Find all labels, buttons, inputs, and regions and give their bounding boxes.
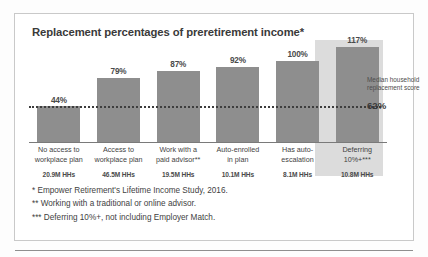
xlabel-text: Has auto- escalation — [269, 145, 327, 164]
divider — [15, 250, 413, 251]
bar-slot-auto-escalation[interactable]: 100% — [268, 40, 328, 142]
benchmark-label-line2: replacement score — [367, 84, 428, 92]
xlabel-line2: in plan — [227, 155, 248, 164]
footnote-1: * Empower Retirement's Lifetime Income S… — [32, 184, 382, 197]
xlabel-household-count: 19.5M HHs — [149, 171, 207, 178]
footnote-2: ** Working with a traditional or online … — [32, 197, 382, 210]
xlabel-household-count: 10.1M HHs — [209, 171, 267, 178]
xlabel-line1: Deferring — [342, 145, 372, 154]
bar-value-label: 87% — [148, 60, 208, 69]
xlabel-line1: Access to — [103, 145, 134, 154]
bar-access[interactable] — [97, 78, 140, 142]
bar-value-label: 44% — [29, 96, 89, 105]
xlabel-line1: Has auto- — [282, 145, 313, 154]
xlabel-text: Access to workplace plan — [90, 145, 148, 164]
xlabel-line2: workplace plan — [95, 155, 143, 164]
xlabel-text: No access to workplace plan — [30, 145, 88, 164]
bar-value-label: 79% — [89, 67, 149, 76]
xlabel-line2: escalation — [281, 155, 313, 164]
benchmark-label: Median household replacement score — [367, 76, 428, 93]
xlabel-line2: 10%+*** — [344, 155, 371, 164]
chart-card: Replacement percentages of preretirement… — [14, 13, 414, 241]
bar-no-access[interactable] — [37, 106, 80, 142]
xlabel-line2: workplace plan — [35, 155, 83, 164]
bar-slot-access[interactable]: 79% — [89, 40, 149, 142]
xlabel-household-count: 8.1M HHs — [269, 171, 327, 178]
xlabel-text: Work with a paid advisor** — [149, 145, 207, 164]
bar-value-label: 100% — [268, 50, 328, 59]
xlabel-text: Auto-enrolled in plan — [209, 145, 267, 164]
xlabel-text: Deferring 10%+*** — [328, 145, 386, 164]
xlabel-line1: Auto-enrolled — [216, 145, 259, 154]
page-root: Replacement percentages of preretirement… — [0, 0, 428, 257]
x-axis-line — [29, 142, 387, 143]
benchmark-label-line1: Median household — [367, 76, 428, 84]
xlabel-line1: Work with a — [159, 145, 196, 154]
xlabel-household-count: 46.5M HHs — [90, 171, 148, 178]
bar-series: 44% 79% 87% 92% 100% — [29, 40, 387, 142]
xlabel-line2: paid advisor** — [156, 155, 200, 164]
bar-auto-enrolled[interactable] — [216, 67, 259, 142]
bar-deferring[interactable] — [336, 47, 379, 142]
footnote-3: *** Deferring 10%+, not including Employ… — [32, 211, 382, 224]
bar-slot-paid-advisor[interactable]: 87% — [148, 40, 208, 142]
bar-value-label: 92% — [208, 56, 268, 65]
footnotes: * Empower Retirement's Lifetime Income S… — [32, 184, 382, 224]
xlabel-household-count: 20.9M HHs — [30, 171, 88, 178]
bar-slot-no-access[interactable]: 44% — [29, 40, 89, 142]
benchmark-dotted-line — [29, 106, 381, 108]
bar-value-label: 117% — [327, 36, 387, 45]
bar-auto-escalation[interactable] — [276, 61, 319, 142]
xlabel-line1: No access to — [38, 145, 80, 154]
bar-slot-auto-enrolled[interactable]: 92% — [208, 40, 268, 142]
xlabel-household-count: 10.8M HHs — [328, 171, 386, 178]
page-title: Replacement percentages of preretirement… — [32, 26, 304, 38]
benchmark-value: 62% — [367, 100, 386, 111]
